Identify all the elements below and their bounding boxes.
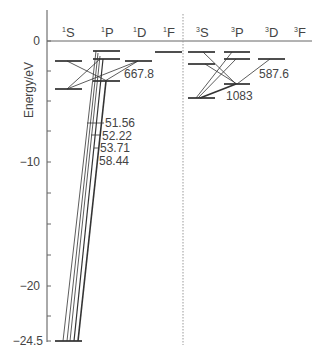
svg-text:3P: 3P	[231, 25, 244, 40]
label-53-71: 53.71	[100, 141, 130, 155]
tick-label-0: 0	[33, 34, 40, 48]
label-1083: 1083	[226, 89, 253, 103]
y-ticks	[47, 41, 51, 341]
tick-label-10: −10	[20, 155, 41, 169]
svg-text:1D: 1D	[133, 25, 146, 40]
energy-level-diagram: 0 −10 −20 −24.5 Energy/eV 1S 1P 1D 1F 3S…	[0, 0, 326, 360]
tick-label-20: −20	[20, 279, 41, 293]
svg-text:3F: 3F	[294, 25, 306, 40]
svg-text:1P: 1P	[101, 25, 114, 40]
triplet-headers: 3S 3P 3D 3F	[196, 25, 306, 40]
label-587-6: 587.6	[259, 67, 289, 81]
svg-text:3D: 3D	[265, 25, 278, 40]
label-58-44: 58.44	[99, 154, 129, 168]
svg-text:1S: 1S	[62, 25, 75, 40]
svg-text:3S: 3S	[196, 25, 209, 40]
singlet-headers: 1S 1P 1D 1F	[62, 25, 175, 40]
label-51-56: 51.56	[105, 116, 135, 130]
label-667-8: 667.8	[124, 67, 154, 81]
svg-text:1F: 1F	[163, 25, 175, 40]
tick-label-24-5: −24.5	[13, 334, 44, 348]
y-axis-label: Energy/eV	[22, 62, 36, 118]
singlet-transitions	[63, 51, 138, 341]
